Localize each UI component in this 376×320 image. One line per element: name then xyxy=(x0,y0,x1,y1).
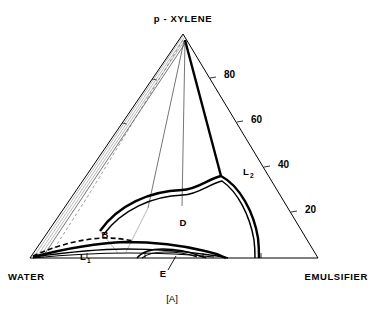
vertex-label-water: WATER xyxy=(8,271,45,282)
tick-label-40: 40 xyxy=(278,159,290,170)
apex-line-centre xyxy=(182,41,185,206)
left-sliver-tielines xyxy=(33,36,186,258)
triangle-outline xyxy=(30,34,318,258)
tick-label-60: 60 xyxy=(251,114,263,125)
figure-caption: [A] xyxy=(166,293,178,304)
tick-40 xyxy=(264,166,270,167)
region-label-l1-group: L 1 xyxy=(80,251,91,264)
tick-20 xyxy=(291,211,297,212)
region-label-d: D xyxy=(180,217,187,228)
region-label-l2-group: L 2 xyxy=(243,166,254,179)
apex-radiating-lines xyxy=(148,41,185,208)
tick-label-20: 20 xyxy=(305,204,317,215)
sliver-line-2 xyxy=(36,38,184,258)
region-label-l2: L xyxy=(243,166,249,177)
sliver-line-1 xyxy=(33,36,183,258)
sliver-line-4 xyxy=(42,42,186,258)
region-label-l2-subscript: 2 xyxy=(250,172,254,179)
apex-to-l2-boundary xyxy=(185,40,221,176)
right-edge-ticks xyxy=(210,77,297,212)
b-tieline-2 xyxy=(126,208,148,252)
apex-line-left xyxy=(148,41,184,208)
region-label-l1: L xyxy=(80,251,86,262)
vertex-label-emulsifier: EMULSIFIER xyxy=(304,271,368,282)
region-label-e: E xyxy=(160,268,166,279)
ternary-phase-diagram-figure: p - XYLENE WATER EMULSIFIER 80 60 40 20 … xyxy=(0,0,376,320)
apex-label-p-xylene: p - XYLENE xyxy=(154,13,212,24)
ternary-diagram-canvas: p - XYLENE WATER EMULSIFIER 80 60 40 20 … xyxy=(0,0,376,320)
region-label-b: B xyxy=(102,229,109,240)
tick-80 xyxy=(210,77,216,78)
tick-60 xyxy=(237,121,243,122)
tick-label-80: 80 xyxy=(224,69,236,80)
region-label-l1-subscript: 1 xyxy=(87,257,91,264)
